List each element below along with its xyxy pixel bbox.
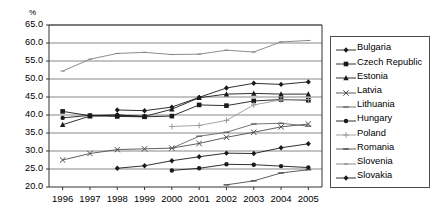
series-line xyxy=(63,93,309,124)
data-point xyxy=(197,166,201,170)
data-point xyxy=(224,103,229,108)
triangle-marker-icon xyxy=(335,70,357,82)
legend-label: Czech Republic xyxy=(357,58,422,67)
series-line xyxy=(226,170,308,185)
legend-label: Estonia xyxy=(357,72,388,81)
data-point xyxy=(142,114,146,118)
legend-item-lithuania[interactable]: Lithuania xyxy=(331,98,429,112)
legend-marker xyxy=(344,175,349,180)
data-point xyxy=(196,123,202,129)
legend-marker xyxy=(344,62,349,67)
diamond-marker-icon xyxy=(335,170,357,182)
legend-label: Romania xyxy=(357,143,394,152)
data-point xyxy=(252,162,256,166)
legend-item-hungary[interactable]: Hungary xyxy=(331,112,429,126)
legend-marker xyxy=(344,119,348,123)
data-point xyxy=(197,103,202,108)
plus-marker-icon xyxy=(335,127,357,139)
line-marker-icon xyxy=(335,156,357,168)
data-point xyxy=(142,163,147,168)
circle-marker-icon xyxy=(335,113,357,125)
legend-item-slovakia[interactable]: Slovakia xyxy=(331,169,429,183)
series-slovenia xyxy=(61,40,311,71)
data-point xyxy=(197,154,202,159)
data-point xyxy=(60,116,64,120)
data-point xyxy=(60,109,65,114)
data-point xyxy=(279,145,284,150)
legend-label: Slovenia xyxy=(357,157,393,166)
legend-item-czech-republic[interactable]: Czech Republic xyxy=(331,55,429,69)
data-point xyxy=(306,79,311,84)
legend-item-latvia[interactable]: Latvia xyxy=(331,84,429,98)
data-point xyxy=(169,124,175,130)
legend-item-slovenia[interactable]: Slovenia xyxy=(331,155,429,169)
data-point xyxy=(306,141,311,146)
data-point xyxy=(169,158,174,163)
square-marker-icon xyxy=(335,56,357,68)
legend-label: Hungary xyxy=(357,114,392,123)
legend-label: Lithuania xyxy=(357,100,395,109)
data-point xyxy=(115,113,119,117)
legend: BulgariaCzech RepublicEstoniaLatviaLithu… xyxy=(330,36,430,188)
legend-label: Poland xyxy=(357,129,386,138)
legend-item-poland[interactable]: Poland xyxy=(331,126,429,140)
legend-item-bulgaria[interactable]: Bulgaria xyxy=(331,41,429,55)
chart-figure: % 20.025.030.035.040.045.050.055.060.065… xyxy=(0,0,435,221)
data-point xyxy=(142,108,147,113)
data-point xyxy=(279,82,284,87)
legend-item-estonia[interactable]: Estonia xyxy=(331,69,429,83)
series-line xyxy=(172,164,309,170)
data-point xyxy=(224,162,228,166)
legend-label: Slovakia xyxy=(357,171,392,180)
legend-marker xyxy=(343,132,349,138)
legend-label: Bulgaria xyxy=(357,43,391,52)
legend-label: Latvia xyxy=(357,86,382,95)
legend-item-romania[interactable]: Romania xyxy=(331,140,429,154)
series-romania xyxy=(224,170,312,185)
series-estonia xyxy=(60,91,311,128)
series-lithuania xyxy=(169,123,311,148)
data-point xyxy=(224,85,229,90)
x-marker-icon xyxy=(335,85,357,97)
data-point xyxy=(88,113,92,117)
data-point xyxy=(251,151,256,156)
data-point xyxy=(224,118,230,124)
data-point xyxy=(115,107,120,112)
dash-marker-icon xyxy=(335,99,357,111)
data-point xyxy=(170,168,174,172)
legend-marker xyxy=(344,47,349,52)
series-line xyxy=(63,40,309,71)
series-hungary xyxy=(60,113,310,173)
diamond-marker-icon xyxy=(335,42,357,54)
dash-marker-icon xyxy=(335,141,357,153)
data-point xyxy=(251,81,256,86)
data-point xyxy=(170,114,175,119)
data-point xyxy=(279,164,283,168)
data-point xyxy=(115,166,120,171)
